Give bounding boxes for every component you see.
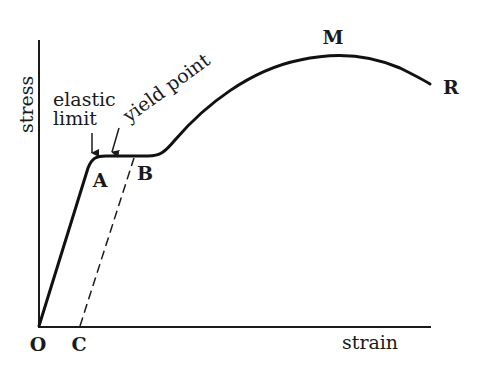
point-r-label: R xyxy=(443,76,459,98)
point-m-label: M xyxy=(322,26,343,48)
point-a-label: A xyxy=(92,169,108,191)
point-b-label: B xyxy=(137,162,153,184)
elastic-limit-label-line2: limit xyxy=(53,107,97,129)
x-axis-label: strain xyxy=(342,331,398,353)
yield-point-arrow xyxy=(112,128,119,152)
y-axis-label: stress xyxy=(15,76,37,133)
origin-label: O xyxy=(30,333,47,355)
point-c-label: C xyxy=(71,333,86,355)
stress-strain-diagram: stress strain O C A B M R elastic limit … xyxy=(0,0,481,371)
